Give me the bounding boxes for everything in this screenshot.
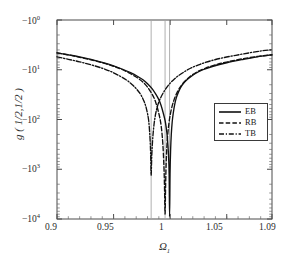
ytick-label-3: −103 — [22, 162, 40, 174]
ytick-label-2: −102 — [22, 113, 40, 125]
legend-swatch-dashdot — [218, 130, 242, 138]
xtick-label-1: 0.95 — [97, 222, 114, 232]
xtick-label-0: 0.9 — [45, 222, 57, 232]
ytick-label-4: −104 — [22, 212, 40, 224]
legend[interactable]: EB RB TB — [214, 103, 268, 141]
xtick-label-4: 1.09 — [259, 222, 276, 232]
legend-swatch-dashed — [218, 119, 242, 127]
x-axis-label: Ω1 — [57, 240, 272, 254]
legend-item-tb[interactable]: TB — [218, 128, 266, 139]
legend-item-rb[interactable]: RB — [218, 117, 266, 128]
legend-swatch-solid — [218, 108, 242, 116]
y-axis-label: g ( 1/2,1/2 ) — [12, 68, 24, 160]
legend-item-eb[interactable]: EB — [218, 106, 266, 117]
xtick-label-3: 1.05 — [206, 222, 223, 232]
ytick-label-1: −101 — [22, 63, 40, 75]
legend-label-rb: RB — [245, 118, 256, 127]
legend-label-eb: EB — [245, 107, 256, 116]
xtick-label-2: 1 — [159, 222, 164, 232]
figure-container: −100 −101 −102 −103 −104 0.9 0.95 1 1.05… — [0, 0, 297, 264]
legend-label-tb: TB — [245, 129, 256, 138]
ytick-label-0: −100 — [22, 14, 40, 26]
